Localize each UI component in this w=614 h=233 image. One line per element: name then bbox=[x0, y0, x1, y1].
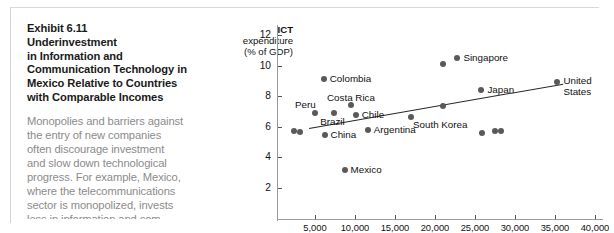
caption-body-line-5: where the telecommunications bbox=[27, 184, 223, 198]
point-label-costa-rica: Costa Rica bbox=[327, 92, 375, 103]
point-label-united-states: United States bbox=[563, 75, 599, 97]
data-point-unlabeled-15[interactable] bbox=[479, 130, 485, 136]
point-label-argentina: Argentina bbox=[374, 124, 416, 135]
exhibit-number: Exhibit 6.11 bbox=[27, 22, 223, 36]
data-point-argentina[interactable] bbox=[365, 127, 371, 133]
x-tick-label-25000: 25,000 bbox=[453, 222, 497, 233]
caption-title-line-1: in Information and bbox=[27, 50, 223, 64]
data-point-japan[interactable] bbox=[478, 87, 484, 93]
y-tick-label-8: 8 bbox=[253, 90, 271, 101]
caption-body-line-1: the entry of new companies bbox=[27, 128, 223, 142]
point-label-japan: Japan bbox=[487, 84, 514, 95]
caption-title-line-0: Underinvestment bbox=[27, 36, 223, 50]
caption-body-line-2: often discourage investment bbox=[27, 142, 223, 156]
x-tick-label-20000: 20,000 bbox=[413, 222, 457, 233]
x-tick bbox=[515, 215, 516, 219]
x-tick-label-35000: 35,000 bbox=[533, 222, 577, 233]
point-label-singapore: Singapore bbox=[463, 52, 508, 63]
x-tick bbox=[395, 215, 396, 219]
y-tick-label-10: 10 bbox=[253, 60, 271, 71]
scatter-chart: ICT expenditure (% of GDP) 246810125,000… bbox=[231, 10, 606, 228]
x-tick bbox=[435, 215, 436, 219]
data-point-unlabeled-17[interactable] bbox=[498, 128, 504, 134]
point-label-mexico: Mexico bbox=[351, 164, 382, 175]
point-label-china: China bbox=[331, 129, 357, 140]
caption-body-line-3: and slow down technological bbox=[27, 156, 223, 170]
data-point-colombia[interactable] bbox=[321, 76, 327, 82]
point-label-chile: Chile bbox=[362, 109, 384, 120]
x-tick bbox=[355, 215, 356, 219]
x-tick bbox=[595, 215, 596, 219]
data-point-china[interactable] bbox=[322, 132, 328, 138]
data-point-singapore[interactable] bbox=[454, 55, 460, 61]
y-tick-label-2: 2 bbox=[253, 182, 271, 193]
caption-block: Exhibit 6.11 Underinvestment in Informat… bbox=[27, 22, 223, 219]
point-label-colombia: Colombia bbox=[330, 73, 371, 84]
point-label-south-korea: South Korea bbox=[413, 119, 467, 130]
caption-body-line-4: progress. For example, Mexico, bbox=[27, 170, 223, 184]
x-tick-label-15000: 15,000 bbox=[373, 222, 417, 233]
x-tick-label-40000: 40,000 bbox=[573, 222, 614, 233]
y-axis-line bbox=[277, 25, 278, 221]
data-point-unlabeled-1[interactable] bbox=[297, 129, 303, 135]
caption-title-line-4: with Comparable Incomes bbox=[27, 91, 223, 105]
caption-body-line-7: less in information and com- bbox=[27, 212, 223, 219]
y-tick-label-4: 4 bbox=[253, 151, 271, 162]
caption-title-line-3: Mexico Relative to Countries bbox=[27, 77, 223, 91]
data-point-unlabeled-16[interactable] bbox=[492, 128, 498, 134]
caption-body: Monopolies and barriers against the entr… bbox=[27, 114, 223, 219]
y-axis-title-line-2: (% of GDP) bbox=[231, 46, 293, 57]
y-tick bbox=[278, 127, 282, 128]
y-tick-label-12: 12 bbox=[253, 29, 271, 40]
y-tick bbox=[278, 66, 282, 67]
x-axis-line bbox=[277, 219, 603, 220]
caption-title: Exhibit 6.11 Underinvestment in Informat… bbox=[27, 22, 223, 105]
caption-title-line-2: Communication Technology in bbox=[27, 63, 223, 77]
x-tick bbox=[555, 215, 556, 219]
y-tick bbox=[278, 157, 282, 158]
caption-body-line-6: sector is monopolized, invests bbox=[27, 198, 223, 212]
data-point-mexico[interactable] bbox=[342, 167, 348, 173]
x-tick-label-30000: 30,000 bbox=[493, 222, 537, 233]
y-tick bbox=[278, 35, 282, 36]
y-tick bbox=[278, 96, 282, 97]
y-tick-label-6: 6 bbox=[253, 121, 271, 132]
y-tick bbox=[278, 188, 282, 189]
x-tick bbox=[315, 215, 316, 219]
x-tick-label-10000: 10,000 bbox=[333, 222, 377, 233]
x-tick bbox=[475, 215, 476, 219]
data-point-peru[interactable] bbox=[312, 110, 318, 116]
data-point-unlabeled-12[interactable] bbox=[440, 61, 446, 67]
point-label-peru: Peru bbox=[295, 99, 316, 110]
data-point-chile[interactable] bbox=[353, 112, 359, 118]
point-label-brazil: Brazil bbox=[320, 116, 345, 127]
caption-body-line-0: Monopolies and barriers against bbox=[27, 114, 223, 128]
x-tick-label-5000: 5,000 bbox=[293, 222, 337, 233]
data-point-unlabeled-11[interactable] bbox=[440, 103, 446, 109]
